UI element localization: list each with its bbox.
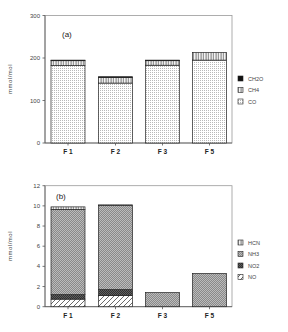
- x-tick-label: F 1: [63, 312, 73, 319]
- y-tick-label: 0: [37, 140, 41, 146]
- bar-segment-hcn: [51, 207, 85, 210]
- x-tick-label: F 3: [158, 312, 168, 319]
- x-tick-label: F 2: [111, 312, 121, 319]
- bar-segment-ch4: [99, 78, 133, 84]
- legend-label: NO: [248, 274, 257, 280]
- legend-swatch: [238, 240, 243, 245]
- legend-swatch: [238, 275, 243, 280]
- y-tick-label: 0: [37, 304, 41, 310]
- chart-panel-a: 0100200300 F 1F 2F 3F 5 (a) mmol/mol CH2…: [7, 13, 264, 156]
- bar-segment-nh3: [193, 273, 227, 306]
- bar-segment-ch4: [193, 52, 227, 60]
- bar-segment-nh3: [51, 209, 85, 294]
- y-tick-label: 2: [37, 284, 41, 290]
- x-tick-label: F 2: [111, 148, 121, 155]
- bar-segment-co: [99, 83, 133, 143]
- legend-label: CH2O: [248, 76, 264, 82]
- legend-label: HCN: [248, 240, 260, 246]
- bar-segment-co: [51, 66, 85, 143]
- bar-segment-ch2o: [146, 60, 180, 61]
- x-tick-label: F 1: [63, 148, 73, 155]
- legend-swatch: [238, 99, 243, 104]
- y-tick-label: 12: [33, 183, 40, 189]
- x-tick-label: F 3: [158, 148, 168, 155]
- x-tick-label: F 5: [205, 148, 215, 155]
- legend-label: NO2: [248, 263, 259, 269]
- bar-segment-co: [193, 60, 227, 143]
- chart-panel-b: 024681012 F 1F 2F 3F 5 (b) mmol/mol HCNN…: [7, 183, 260, 319]
- bar-segment-hcn: [99, 205, 133, 206]
- panel-label: (b): [56, 192, 66, 201]
- y-tick-label: 200: [30, 55, 41, 61]
- bar-segment-co: [146, 65, 180, 143]
- y-tick-label: 4: [37, 263, 41, 269]
- bar-segment-nh3: [146, 293, 180, 307]
- y-tick-label: 8: [37, 223, 41, 229]
- bar-segment-nh3: [99, 205, 133, 289]
- bar-segment-no: [99, 296, 133, 307]
- panel-label: (a): [62, 30, 72, 39]
- y-tick-label: 10: [33, 203, 40, 209]
- y-axis-label: mmol/mol: [7, 231, 13, 261]
- bar-segment-ch2o: [99, 77, 133, 78]
- legend-label: CH4: [248, 87, 259, 93]
- y-tick-label: 6: [37, 243, 41, 249]
- bar-segment-no2: [99, 290, 133, 296]
- legend-swatch: [238, 88, 243, 93]
- bar-segment-ch4: [146, 61, 180, 66]
- bar-segment-no2: [51, 295, 85, 300]
- x-tick-label: F 5: [205, 312, 215, 319]
- bar-segment-no: [51, 299, 85, 307]
- legend-label: NH3: [248, 251, 259, 257]
- legend-swatch: [238, 252, 243, 257]
- y-tick-label: 300: [30, 13, 41, 19]
- y-axis-label: mmol/mol: [7, 64, 13, 94]
- legend-swatch: [238, 263, 243, 268]
- chart-figure: 0100200300 F 1F 2F 3F 5 (a) mmol/mol CH2…: [0, 0, 288, 332]
- y-tick-label: 100: [30, 98, 41, 104]
- bar-segment-ch2o: [51, 60, 85, 61]
- bar-segment-ch4: [51, 61, 85, 66]
- legend-swatch: [238, 76, 243, 81]
- legend-label: CO: [248, 99, 257, 105]
